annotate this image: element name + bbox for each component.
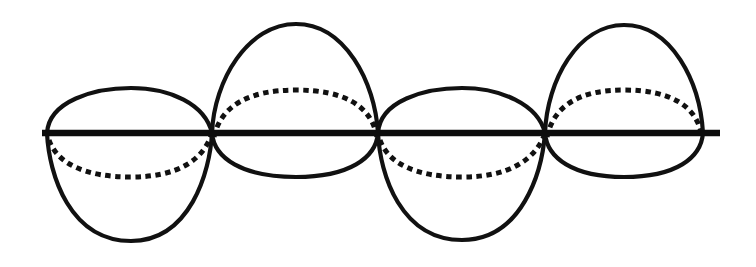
wave-diagram-canvas <box>0 0 756 267</box>
wave-diagram-figure <box>0 0 756 267</box>
